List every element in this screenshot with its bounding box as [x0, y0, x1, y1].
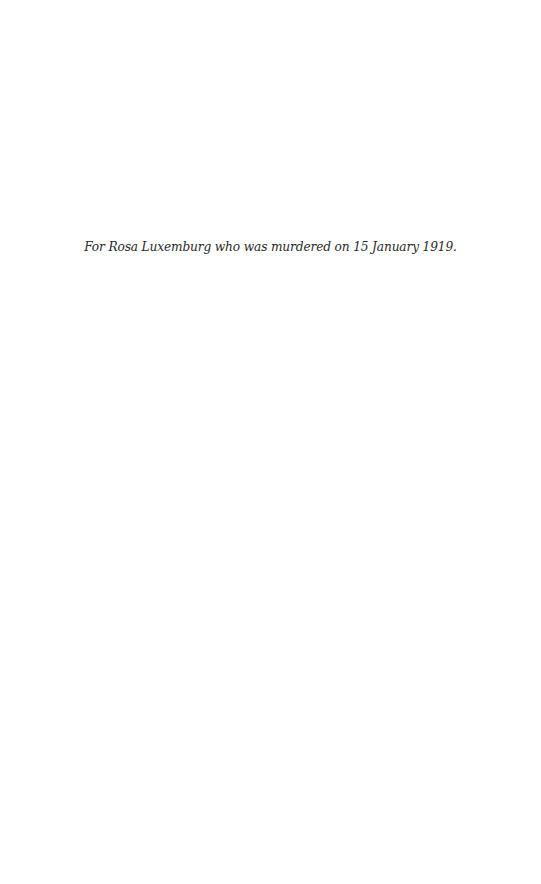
book-page: For Rosa Luxemburg who was murdered on 1…	[0, 0, 541, 884]
dedication-text: For Rosa Luxemburg who was murdered on 1…	[0, 238, 541, 256]
